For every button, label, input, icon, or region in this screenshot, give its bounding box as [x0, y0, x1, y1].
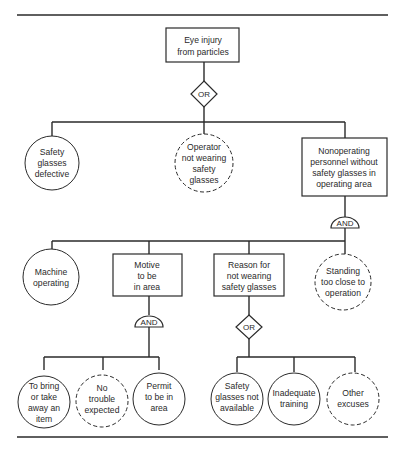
svg-text:personnel without: personnel without [310, 157, 378, 167]
svg-text:training: training [280, 399, 308, 409]
svg-text:safety glasses: safety glasses [222, 282, 276, 292]
event-reason-not-wearing: Reason for not wearing safety glasses [214, 254, 284, 296]
event-bring-or-take-item: To bring or take away an item [18, 376, 70, 428]
fault-tree-diagram: Eye injury from particles OR Safety glas… [0, 0, 409, 454]
and-gate-motive: AND [135, 316, 163, 327]
svg-text:item: item [36, 414, 52, 424]
event-nonoperating-personnel: Nonoperating personnel without safety gl… [302, 138, 387, 196]
svg-text:operating: operating [33, 278, 69, 288]
and-gate-nonoperating: AND [331, 217, 359, 228]
svg-text:away an: away an [28, 403, 60, 413]
svg-text:glasses: glasses [37, 158, 66, 168]
svg-text:available: available [220, 403, 254, 413]
svg-text:expected: expected [85, 405, 120, 415]
svg-text:Nonoperating: Nonoperating [318, 146, 370, 156]
svg-text:To bring: To bring [29, 381, 60, 391]
svg-text:operating area: operating area [316, 179, 372, 189]
event-no-trouble-expected: No trouble expected [76, 375, 128, 427]
svg-text:Motive: Motive [134, 260, 160, 270]
svg-text:AND: AND [141, 318, 158, 327]
event-permit-to-be-in-area: Permit to be in area [133, 373, 185, 425]
event-operator-not-wearing: Operator not wearing safety glasses [175, 134, 233, 192]
svg-text:No: No [97, 383, 108, 393]
svg-text:to be: to be [137, 271, 156, 281]
svg-text:Safety: Safety [225, 381, 250, 391]
svg-text:Machine: Machine [35, 267, 68, 277]
event-glasses-not-available: Safety glasses not available [211, 373, 263, 425]
svg-text:Safety: Safety [40, 147, 65, 157]
top-event-line1: Eye injury [184, 35, 222, 45]
svg-text:not wearing: not wearing [182, 153, 227, 163]
top-event-box: Eye injury from particles [166, 28, 239, 62]
event-machine-operating: Machine operating [23, 249, 79, 305]
event-standing-too-close: Standing too close to operation [315, 254, 371, 310]
event-safety-glasses-defective: Safety glasses defective [25, 136, 79, 190]
or-gate-reason: OR [236, 315, 262, 339]
event-inadequate-training: Inadequate training [268, 373, 320, 425]
svg-text:defective: defective [35, 169, 70, 179]
svg-text:too close to: too close to [321, 277, 365, 287]
svg-text:trouble: trouble [89, 394, 115, 404]
svg-text:not wearing: not wearing [227, 271, 272, 281]
svg-text:Standing: Standing [326, 266, 360, 276]
svg-text:Permit: Permit [147, 381, 172, 391]
svg-text:excuses: excuses [337, 399, 369, 409]
svg-text:safety glasses in: safety glasses in [312, 168, 376, 178]
svg-text:operation: operation [325, 288, 361, 298]
svg-text:OR: OR [243, 323, 255, 332]
svg-text:AND: AND [337, 219, 354, 228]
svg-text:Other: Other [342, 388, 364, 398]
svg-text:OR: OR [198, 90, 210, 99]
svg-text:or take: or take [31, 392, 57, 402]
or-gate-top: OR [191, 81, 217, 107]
svg-text:to be in: to be in [145, 392, 173, 402]
svg-text:Reason for: Reason for [228, 260, 270, 270]
event-other-excuses: Other excuses [327, 373, 379, 425]
event-motive-to-be-in-area: Motive to be in area [113, 254, 182, 296]
svg-text:in area: in area [134, 282, 160, 292]
svg-text:Operator: Operator [187, 142, 221, 152]
svg-text:glasses not: glasses not [215, 392, 259, 402]
svg-text:area: area [150, 403, 167, 413]
svg-text:safety: safety [193, 164, 217, 174]
top-event-line2: from particles [177, 47, 229, 57]
svg-text:glasses: glasses [189, 175, 218, 185]
svg-text:Inadequate: Inadequate [272, 388, 315, 398]
